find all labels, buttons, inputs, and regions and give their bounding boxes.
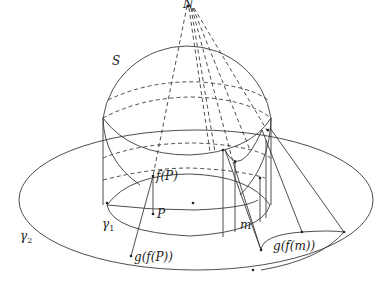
point-gfm-2: [301, 231, 304, 234]
point-gamma1-left: [106, 202, 109, 205]
point-gamma1-mid: [192, 202, 195, 205]
point-P: [152, 213, 155, 216]
outer-circle-gamma2: [19, 130, 373, 270]
label-gfm: g(f(m)): [273, 240, 315, 252]
sphere-outline: [103, 46, 271, 118]
label-fP: f(P): [156, 170, 178, 182]
gamma1-subscript: 1: [109, 224, 114, 233]
point-m-2: [259, 177, 262, 180]
label-gamma2: γ2: [20, 230, 32, 245]
point-gfm-4: [252, 269, 255, 272]
point-gfm-3: [343, 231, 346, 234]
label-north-pole: N: [183, 0, 194, 10]
point-eq-1: [222, 149, 225, 152]
point-gfm-1: [260, 249, 263, 252]
point-fP: [152, 175, 155, 178]
sphere-equator-front: [103, 118, 271, 155]
cylinder-bottom-back: [103, 143, 271, 158]
label-gamma1: γ1: [102, 218, 114, 233]
point-gfP: [130, 255, 133, 258]
point-m-1: [234, 161, 237, 164]
label-sphere-S: S: [112, 55, 120, 67]
label-gfP: g(f(P)): [134, 251, 173, 263]
label-m: m: [240, 219, 251, 231]
sphere-latitude-dashed: [108, 82, 268, 100]
label-P: P: [157, 208, 165, 220]
ray-to-gfP: [131, 176, 153, 256]
point-eq-2: [267, 129, 270, 132]
gamma2-subscript: 2: [27, 236, 32, 245]
diagram-canvas: [0, 0, 379, 286]
sphere-equator-back: [103, 97, 271, 118]
sphere-lower-left: [103, 118, 140, 185]
stereographic-projection-diagram: N S γ1 γ2 P f(P) g(f(P)) m g(f(m)): [0, 0, 379, 286]
ray-gfm-1: [225, 150, 261, 250]
ray-gfm-4: [270, 128, 344, 232]
